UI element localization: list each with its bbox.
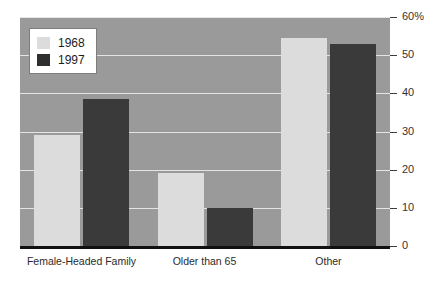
legend-label: 1968 xyxy=(58,37,85,49)
y-axis-label: 10 xyxy=(402,202,414,213)
gridline xyxy=(20,17,390,18)
bar-chart: 0102030405060% 19681997 Female-Headed Fa… xyxy=(0,0,444,286)
bar-1968-0 xyxy=(34,135,80,246)
legend-swatch-icon xyxy=(37,37,50,49)
bar-1968-2 xyxy=(281,38,327,246)
x-axis-label: Older than 65 xyxy=(143,255,266,267)
y-axis-label: 20 xyxy=(402,164,414,175)
y-axis-tick xyxy=(390,17,397,18)
bar-1997-2 xyxy=(330,44,376,246)
y-axis-tick xyxy=(390,208,397,209)
bar-1997-0 xyxy=(83,99,129,246)
y-axis-tick xyxy=(390,170,397,171)
y-axis-label: 60% xyxy=(402,11,424,22)
chart-legend: 19681997 xyxy=(29,28,97,74)
y-axis-label: 0 xyxy=(402,240,408,251)
legend-label: 1997 xyxy=(58,54,85,66)
y-axis-label: 40 xyxy=(402,87,414,98)
y-axis-label: 50 xyxy=(402,49,414,60)
y-axis-tick xyxy=(390,93,397,94)
y-axis-tick xyxy=(390,246,397,247)
bar-1968-1 xyxy=(158,173,204,246)
legend-item: 1997 xyxy=(37,51,85,68)
y-axis-tick xyxy=(390,55,397,56)
x-axis-label: Female-Headed Family xyxy=(20,255,143,267)
bar-1997-1 xyxy=(207,208,253,246)
legend-item: 1968 xyxy=(37,34,85,51)
legend-swatch-icon xyxy=(37,54,50,66)
x-axis-label: Other xyxy=(267,255,390,267)
y-axis: 0102030405060% xyxy=(390,0,444,286)
y-axis-label: 30 xyxy=(402,126,414,137)
x-axis-line xyxy=(20,246,390,249)
y-axis-tick xyxy=(390,132,397,133)
